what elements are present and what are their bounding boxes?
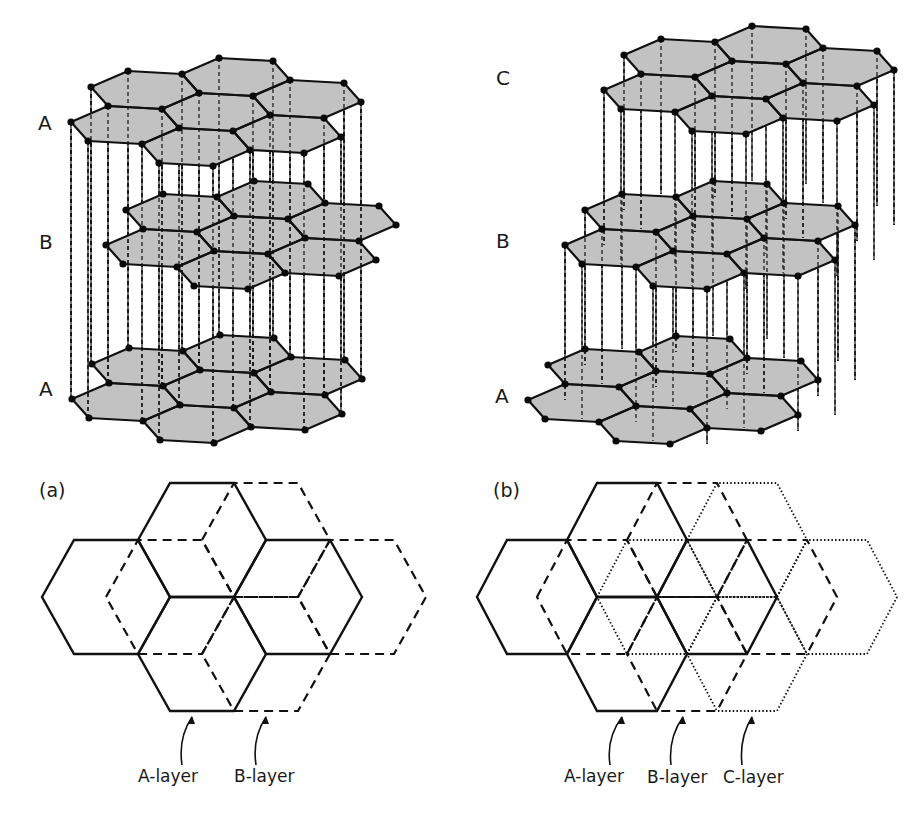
carbon-atom — [321, 199, 328, 206]
carbon-atom — [269, 57, 276, 64]
carbon-atom — [802, 25, 809, 32]
carbon-atom — [247, 423, 254, 430]
carbon-atom — [287, 353, 294, 360]
panel-b-layer-label-top: C — [496, 68, 510, 88]
carbon-atom — [178, 70, 185, 77]
carbon-atom — [210, 247, 217, 254]
carbon-atom — [358, 375, 365, 382]
carbon-atom — [726, 335, 733, 342]
carbon-atom — [760, 234, 767, 241]
carbon-atom — [301, 426, 308, 433]
carbon-atom — [561, 241, 568, 248]
carbon-atom — [743, 215, 750, 222]
carbon-atom — [155, 159, 162, 166]
carbon-atom — [215, 54, 222, 61]
carbon-atom — [88, 360, 95, 367]
carbon-atom — [595, 418, 602, 425]
carbon-atom — [159, 382, 166, 389]
carbon-atom — [834, 202, 841, 209]
carbon-atom — [173, 263, 180, 270]
graphite-stacking-figure — [0, 0, 921, 819]
carbon-atom — [84, 137, 91, 144]
panel-b-tag: (b) — [493, 481, 520, 500]
carbon-atom — [833, 117, 840, 124]
carbon-atom — [246, 146, 253, 153]
callout-arrow-b-layer — [255, 716, 269, 765]
carbon-atom — [304, 180, 311, 187]
carbon-atom — [338, 410, 345, 417]
carbon-atom — [870, 101, 877, 108]
carbon-atom — [762, 95, 769, 102]
carbon-atom — [230, 404, 237, 411]
panel-a-2d-projection — [42, 483, 426, 765]
carbon-atom — [723, 389, 730, 396]
carbon-atom — [728, 57, 735, 64]
carbon-atom — [779, 114, 786, 121]
panel-b-2d-projection — [477, 483, 897, 765]
carbon-atom — [706, 370, 713, 377]
panel-a-callout-b-layer: B-layer — [234, 768, 294, 785]
carbon-atom — [320, 114, 327, 121]
carbon-atom — [138, 140, 145, 147]
carbon-atom — [703, 285, 710, 292]
arrow-shaft — [671, 717, 684, 765]
carbon-atom — [250, 177, 257, 184]
arrow-shaft — [255, 717, 266, 765]
projection-b-layer — [106, 483, 426, 711]
panel-a-3d-abab-structure — [67, 54, 399, 446]
projection-a-layer — [477, 483, 777, 711]
carbon-atom — [139, 417, 146, 424]
carbon-atom — [777, 392, 784, 399]
carbon-atom — [688, 127, 695, 134]
carbon-atom — [666, 440, 673, 447]
carbon-atom — [105, 379, 112, 386]
carbon-atom — [249, 92, 256, 99]
arrow-shaft — [741, 717, 752, 765]
carbon-atom — [541, 415, 548, 422]
carbon-atom — [119, 260, 126, 267]
carbon-atom — [890, 66, 897, 73]
carbon-atom — [335, 272, 342, 279]
carbon-atom — [794, 272, 801, 279]
panel-a-callout-a-layer: A-layer — [138, 768, 198, 785]
carbon-atom — [748, 22, 755, 29]
carbon-atom — [612, 437, 619, 444]
carbon-atom — [652, 228, 659, 235]
panel-b-callout-c-layer: C-layer — [723, 769, 784, 786]
carbon-atom — [139, 225, 146, 232]
carbon-atom — [708, 92, 715, 99]
arrow-shaft — [181, 717, 192, 765]
carbon-atom — [578, 260, 585, 267]
carbon-atom — [799, 79, 806, 86]
panel-a-layer-label-bottom: A — [39, 379, 53, 399]
carbon-atom — [340, 79, 347, 86]
carbon-atom — [703, 424, 710, 431]
projection-b-layer — [537, 483, 837, 711]
carbon-atom — [179, 347, 186, 354]
carbon-atom — [321, 391, 328, 398]
carbon-atom — [831, 256, 838, 263]
carbon-atom — [301, 234, 308, 241]
panel-b-3d-abcabc-structure — [524, 22, 897, 447]
carbon-atom — [581, 206, 588, 213]
panel-b-layer-label-middle: B — [496, 231, 510, 251]
carbon-atom — [250, 369, 257, 376]
carbon-atom — [375, 202, 382, 209]
panel-a-tag: (a) — [39, 481, 65, 500]
carbon-atom — [158, 105, 165, 112]
carbon-atom — [85, 414, 92, 421]
carbon-atom — [782, 60, 789, 67]
callout-arrow-a-layer — [181, 716, 195, 765]
carbon-atom — [740, 269, 747, 276]
carbon-atom — [337, 133, 344, 140]
carbon-atom — [637, 70, 644, 77]
carbon-atom — [814, 237, 821, 244]
carbon-atom — [711, 38, 718, 45]
carbon-atom — [175, 124, 182, 131]
callout-arrow-a-layer — [609, 716, 625, 765]
arrow-shaft — [609, 717, 622, 765]
carbon-atom — [632, 402, 639, 409]
carbon-atom — [600, 86, 607, 93]
carbon-atom — [104, 102, 111, 109]
carbon-atom — [853, 82, 860, 89]
